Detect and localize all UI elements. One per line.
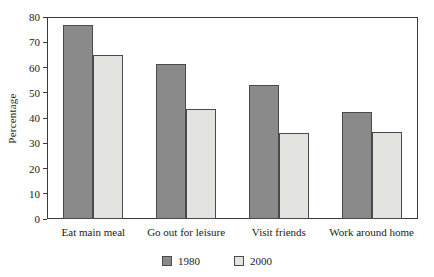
x-axis-labels: Eat main mealGo out for leisureVisit fri… [47, 224, 418, 242]
bar-1980-4[interactable] [342, 112, 372, 219]
y-tick-label: 70 [29, 34, 40, 50]
y-tick-label: 20 [29, 161, 40, 177]
bar-1980-3[interactable] [249, 85, 279, 219]
y-tick-label: 30 [29, 135, 40, 151]
y-axis-title: Percentage [4, 17, 20, 220]
legend-label: 2000 [250, 254, 272, 268]
y-tick-label: 10 [29, 186, 40, 202]
y-tick-label: 50 [29, 85, 40, 101]
bar-2000-2[interactable] [186, 109, 216, 219]
y-tick-label: 0 [35, 211, 41, 227]
legend-swatch-icon [234, 256, 244, 266]
legend-item-1980[interactable]: 1980 [162, 254, 200, 268]
bar-chart: Percentage 01020304050607080 Eat main me… [0, 0, 434, 277]
x-axis-label: Work around home [325, 224, 418, 240]
bar-2000-3[interactable] [279, 133, 309, 219]
x-axis-label: Visit friends [233, 224, 326, 240]
bar-1980-2[interactable] [156, 64, 186, 219]
bar-group [325, 17, 418, 219]
chart-legend: 19802000 [0, 252, 434, 270]
bar-2000-1[interactable] [93, 55, 123, 219]
bars-layer [47, 17, 418, 219]
legend-swatch-icon [162, 256, 172, 266]
x-axis-label: Eat main meal [47, 224, 140, 240]
bar-group [140, 17, 233, 219]
bar-group [233, 17, 326, 219]
bar-2000-4[interactable] [372, 132, 402, 219]
x-axis-label: Go out for leisure [140, 224, 233, 240]
legend-label: 1980 [178, 254, 200, 268]
y-tick-label: 60 [29, 60, 40, 76]
legend-item-2000[interactable]: 2000 [234, 254, 272, 268]
bar-group [47, 17, 140, 219]
y-tick-label: 40 [29, 110, 40, 126]
y-tick-label: 80 [29, 9, 40, 25]
bar-1980-1[interactable] [63, 25, 93, 219]
